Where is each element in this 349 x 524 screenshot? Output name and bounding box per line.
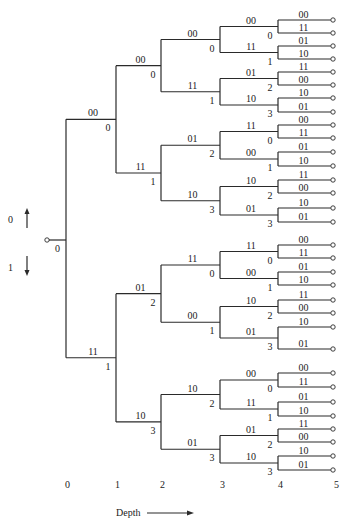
state-label-d4: 1 [268,282,273,293]
output-label-d3: 10 [188,383,198,394]
output-label-d5: 11 [299,22,309,33]
leaf-node-icon [331,44,335,48]
leaf-node-icon [331,440,335,444]
leaf-node-icon [331,164,335,168]
leaf-node-icon [331,371,335,375]
output-label-d4: 01 [246,67,256,78]
output-label-d5: 00 [299,182,309,193]
leaf-node-icon [331,311,335,315]
depth-tick-2: 2 [160,479,165,490]
state-label-d3: 3 [210,204,215,215]
leaf-node-icon [331,347,335,351]
state-label-d4: 0 [268,255,273,266]
state-label-d4: 1 [268,412,273,423]
state-label-d2: 1 [151,176,156,187]
state-label-d4: 2 [268,190,273,201]
state-label-d4: 1 [268,162,273,173]
output-label-d4: 10 [246,93,256,104]
output-label-d5: 11 [299,247,309,258]
leaf-node-icon [331,325,335,329]
leaf-node-icon [331,178,335,182]
leaf-node-icon [331,123,335,127]
leaf-node-icon [331,256,335,260]
leaf-node-icon [331,283,335,287]
output-label-d2: 11 [136,161,146,172]
output-label-d4: 11 [246,41,256,52]
output-label-d1: 00 [88,107,98,118]
leaf-node-icon [331,83,335,87]
state-label-d2: 3 [151,425,156,436]
state-label-d4: 3 [268,341,273,352]
output-label-d4: 11 [246,397,256,408]
output-label-d3: 00 [188,310,198,321]
output-label-d5: 10 [299,155,309,166]
leaf-node-icon [331,414,335,418]
state-label-d4: 0 [268,383,273,394]
state-label-d2: 0 [151,69,156,80]
legend-down-label: 1 [8,262,13,273]
output-label-d2: 10 [136,410,146,421]
leaf-node-icon [331,18,335,22]
output-label-d5: 01 [299,35,309,46]
leaf-node-icon [331,220,335,224]
depth-tick-4: 4 [278,479,283,490]
state-label-d2: 2 [151,297,156,308]
output-label-d2: 01 [136,282,146,293]
output-label-d3: 00 [188,28,198,39]
root-node-icon [45,238,49,242]
up-arrowhead-icon [25,208,30,214]
output-label-d1: 11 [88,346,98,357]
legend-up-label: 0 [8,214,13,225]
output-label-d5: 11 [299,61,309,72]
leaf-node-icon [331,454,335,458]
output-label-d3: 01 [188,133,198,144]
output-label-d5: 01 [299,459,309,470]
code-tree-diagram: 0000111000111012103000111012103110001102… [0,0,349,524]
output-label-d5: 01 [299,338,309,349]
state-label-d4: 0 [268,135,273,146]
input-legend: 0 1 [8,208,30,276]
output-label-d3: 11 [188,80,198,91]
depth-tick-0: 0 [65,479,70,490]
leaf-node-icon [331,110,335,114]
depth-arrowhead-icon [187,511,194,516]
output-label-d4: 00 [246,15,256,26]
depth-tick-3: 3 [220,479,225,490]
output-label-d5: 01 [299,211,309,222]
output-label-d4: 10 [246,175,256,186]
output-label-d5: 00 [299,114,309,125]
output-label-d4: 10 [246,295,256,306]
output-label-d5: 11 [299,127,309,138]
output-label-d4: 11 [246,120,256,131]
output-label-d4: 00 [246,267,256,278]
state-label-d4: 3 [268,108,273,119]
state-label-d4: 2 [268,82,273,93]
output-label-d5: 01 [299,101,309,112]
output-label-d5: 00 [299,9,309,20]
state-label-d3: 0 [210,268,215,279]
down-arrowhead-icon [25,270,30,276]
output-label-d5: 11 [299,289,309,300]
root-state-label: 0 [55,243,60,254]
output-label-d4: 01 [246,424,256,435]
output-label-d4: 10 [246,451,256,462]
output-label-d5: 00 [299,74,309,85]
leaf-node-icon [331,427,335,431]
state-label-d3: 2 [210,148,215,159]
leaf-node-icon [331,270,335,274]
leaf-node-icon [331,468,335,472]
leaf-node-icon [331,400,335,404]
output-label-d5: 01 [299,141,309,152]
leaf-node-icon [331,70,335,74]
state-label-d3: 2 [210,398,215,409]
depth-tick-5: 5 [334,479,339,490]
output-label-d5: 00 [299,431,309,442]
output-label-d3: 01 [188,437,198,448]
output-label-d5: 00 [299,362,309,373]
output-label-d5: 10 [299,445,309,456]
state-label-d3: 0 [210,43,215,54]
output-label-d5: 10 [299,87,309,98]
output-label-d5: 11 [299,169,309,180]
output-label-d4: 00 [246,368,256,379]
leaf-node-icon [331,243,335,247]
